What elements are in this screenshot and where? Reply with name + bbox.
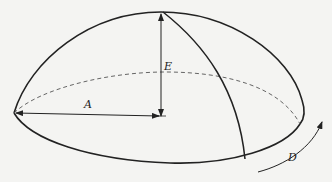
meridian-line bbox=[163, 12, 245, 159]
dome-diagram: E A D bbox=[0, 0, 332, 182]
base-front-curve bbox=[14, 113, 300, 163]
dome-outline bbox=[14, 12, 304, 124]
label-height: E bbox=[163, 60, 172, 73]
radius-dimension-line bbox=[16, 113, 159, 116]
label-radius: A bbox=[83, 98, 92, 111]
label-circumference: D bbox=[287, 151, 297, 164]
